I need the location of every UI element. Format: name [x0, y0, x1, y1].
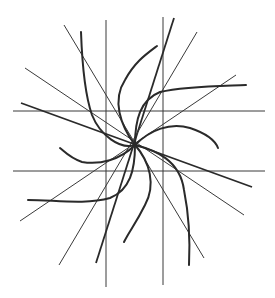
line-diag-ne-outer [20, 75, 236, 221]
curve-arm-bottom-left [28, 145, 135, 202]
curve-arm-right-top [135, 85, 246, 145]
curve-arm-right [135, 126, 218, 148]
curve-arm-bottom-right [135, 145, 189, 265]
straight-lines-group [13, 17, 265, 287]
spiral-curves-group [28, 32, 246, 265]
spiral-line-diagram [0, 0, 275, 298]
curve-arm-left [60, 145, 135, 163]
